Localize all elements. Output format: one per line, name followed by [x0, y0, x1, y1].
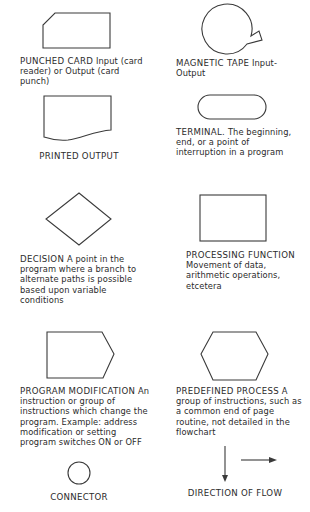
- decision-shape: [46, 193, 111, 245]
- predefined-process-title: PREDEFINED PROCESS: [176, 386, 279, 396]
- decision-label: DECISION A point in the program where a …: [20, 254, 150, 305]
- magnetic-tape-label: MAGNETIC TAPE Input-Output: [176, 58, 306, 78]
- predefined-process-shape: [201, 332, 268, 380]
- printed-output-title: PRINTED OUTPUT: [39, 151, 118, 161]
- program-modification-title: PROGRAM MODIFICATION: [20, 386, 135, 396]
- direction-of-flow-label: DIRECTION OF FLOW: [180, 488, 290, 498]
- punched-card-title: PUNCHED CARD: [20, 56, 93, 66]
- connector-label: CONNECTOR: [30, 492, 128, 502]
- terminal-title: TERMINAL.: [176, 127, 225, 137]
- punched-card-shape: [43, 13, 110, 48]
- terminal-shape: [198, 95, 266, 119]
- processing-function-shape: [200, 195, 266, 241]
- magnetic-tape-title: MAGNETIC TAPE: [176, 58, 249, 68]
- processing-function-description: Movement of data, arithmetic operations,…: [186, 260, 280, 290]
- printed-output-shape: [44, 96, 111, 140]
- program-modification-label: PROGRAM MODIFICATION An instruction or g…: [20, 386, 152, 447]
- direction-of-flow-title: DIRECTION OF FLOW: [188, 488, 283, 498]
- predefined-process-label: PREDEFINED PROCESS A group of instructio…: [176, 386, 306, 437]
- connector-shape: [68, 462, 90, 484]
- punched-card-label: PUNCHED CARD Input (card reader) or Outp…: [20, 56, 150, 87]
- program-modification-shape: [47, 332, 114, 378]
- printed-output-label: PRINTED OUTPUT: [20, 151, 138, 161]
- processing-function-title: PROCESSING FUNCTION: [186, 250, 295, 260]
- decision-title: DECISION: [20, 254, 64, 264]
- processing-function-label: PROCESSING FUNCTION Movement of data, ar…: [186, 250, 310, 291]
- magnetic-tape-shape: [202, 4, 262, 54]
- connector-title: CONNECTOR: [50, 492, 108, 502]
- terminal-label: TERMINAL. The beginning, end, or a point…: [176, 127, 302, 158]
- direction-of-flow-arrows: [225, 446, 270, 477]
